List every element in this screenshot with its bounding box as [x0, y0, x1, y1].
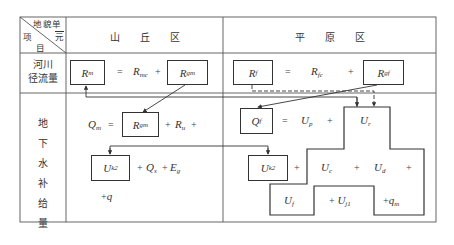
var-sub: s: [154, 167, 157, 175]
var-Up: Up: [301, 114, 312, 128]
var-sub: d: [382, 167, 386, 175]
plus-sign: +: [327, 115, 333, 126]
var-sub: f: [260, 117, 262, 125]
row-label-river-runoff: 河川 径流量: [20, 58, 66, 86]
plus-sign: +: [348, 66, 354, 77]
plus-sign: +: [162, 162, 168, 173]
var-Ru: Ru: [175, 118, 185, 132]
corner-char: 地: [33, 19, 42, 29]
box-Rf: Rf: [233, 60, 273, 85]
var-sub: m: [96, 124, 101, 132]
var-Rfc: Rfc: [311, 65, 323, 79]
header-plain: 平 原 区: [223, 29, 436, 44]
var-base: Q: [88, 118, 96, 130]
box-Rm: Rm: [70, 60, 105, 85]
var-base: E: [170, 161, 177, 173]
var-q: +q: [101, 190, 112, 202]
var-base: Q: [146, 161, 154, 173]
corner-label-item: 项: [23, 30, 32, 42]
var-sub: f: [292, 200, 294, 208]
var-base: R: [175, 118, 182, 130]
var-sub: j1: [345, 200, 350, 208]
var-sub: r: [368, 120, 371, 128]
label-char: 补: [38, 175, 48, 190]
arrow-rgf-to-qf: [258, 85, 377, 107]
var-base: R: [133, 119, 140, 131]
plus-sign: +: [191, 119, 197, 130]
var-base: q: [107, 190, 113, 202]
var-base: U: [301, 114, 309, 126]
var-sub: mc: [140, 71, 148, 79]
var-sub: m: [394, 200, 399, 208]
plus-sign: +: [155, 66, 161, 77]
equals-sign: =: [285, 66, 291, 77]
var-sub: k2: [111, 164, 118, 172]
header-mountain: 山 丘 区: [66, 29, 223, 44]
var-sub: m: [88, 69, 93, 77]
label-char: 给: [38, 195, 48, 210]
var-base: R: [377, 67, 384, 79]
var-sub: p: [309, 120, 313, 128]
box-Rgm-recharge: Rgm: [122, 112, 159, 137]
plus-sign: +: [329, 195, 335, 206]
var-base: U: [360, 114, 368, 126]
box-Uk2-mountain: Uk2: [91, 155, 130, 181]
corner-char: 貌: [43, 19, 52, 29]
var-Qm: Qm: [88, 118, 101, 132]
var-base: Q: [252, 115, 260, 127]
var-base: R: [249, 67, 256, 79]
var-qm: +qm: [383, 194, 399, 208]
corner-label-top: 地貌单: [33, 17, 61, 29]
arrow-rgm-to-rgm: [143, 85, 185, 112]
var-Eg: Eg: [170, 161, 180, 175]
var-base: U: [284, 194, 292, 206]
var-base: U: [374, 161, 382, 173]
corner-char: 单: [52, 19, 61, 29]
var-base: U: [321, 161, 329, 173]
var-base: U: [261, 162, 269, 174]
var-sub: u: [182, 124, 186, 132]
var-sub: k2: [269, 164, 276, 172]
var-sub: g: [177, 167, 181, 175]
label-char: 地: [38, 115, 48, 130]
plus-sign: +: [165, 119, 171, 130]
var-Qs: Qs: [146, 161, 157, 175]
var-base: R: [311, 65, 318, 77]
box-Qf: Qf: [240, 108, 273, 134]
var-Uc: Uc: [321, 161, 332, 175]
plus-sign: +: [406, 162, 412, 173]
corner-char: 元: [55, 30, 64, 42]
box-Rgm: Rgm: [167, 60, 208, 85]
var-sub: gm: [187, 69, 196, 77]
label-line: 径流量: [20, 72, 66, 86]
var-base: R: [133, 65, 140, 77]
corner-label-item: 目: [36, 41, 45, 53]
arrow-uk2-link: [110, 146, 268, 154]
var-base: U: [103, 162, 111, 174]
var-sub: c: [329, 167, 332, 175]
var-sub: fc: [318, 71, 323, 79]
label-char: 下: [38, 135, 48, 150]
var-Rmc: Rmc: [133, 65, 148, 79]
var-Uj1: + Uj1: [329, 194, 351, 208]
var-sub: gm: [140, 121, 149, 129]
var-sub: gf: [384, 69, 389, 77]
box-Rgf: Rgf: [363, 60, 404, 85]
label-char: 水: [38, 155, 48, 170]
equals-sign: =: [117, 66, 123, 77]
var-Uf: Uf: [284, 194, 294, 208]
dashed-arrow-rf-to-ur: [252, 85, 374, 106]
var-sub: f: [255, 69, 257, 77]
box-Uk2-plain: Uk2: [248, 155, 288, 181]
var-Ur: Ur: [360, 114, 371, 128]
label-line: 河川: [20, 58, 66, 72]
plus-sign: +: [294, 162, 300, 173]
var-base: R: [82, 67, 89, 79]
var-Ud: Ud: [374, 161, 385, 175]
equals-sign: =: [108, 119, 114, 130]
plus-sign: +: [137, 162, 143, 173]
var-base: R: [180, 67, 187, 79]
row-label-groundwater-recharge: 地 下 水 补 给 量: [20, 115, 66, 230]
equals-sign: =: [282, 115, 288, 126]
plus-sign: +: [354, 162, 360, 173]
